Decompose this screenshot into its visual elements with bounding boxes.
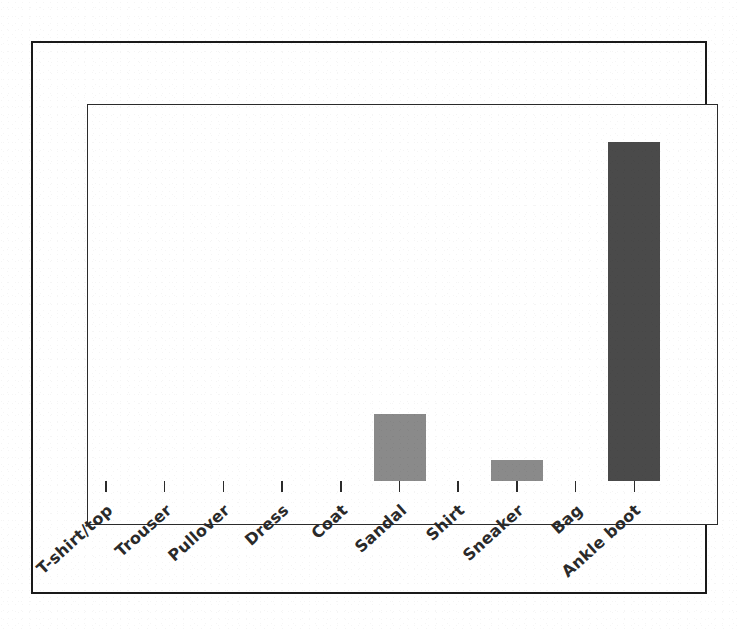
bar-ankle-boot[interactable] xyxy=(608,142,660,481)
x-tick-10 xyxy=(634,481,636,492)
x-tick-3 xyxy=(223,481,225,492)
x-tick-9 xyxy=(575,481,577,492)
x-axis-tick-marks xyxy=(0,481,740,495)
bar-sneaker[interactable] xyxy=(491,460,543,481)
x-tick-1 xyxy=(105,481,107,492)
x-tick-2 xyxy=(164,481,166,492)
bar-sandal[interactable] xyxy=(374,414,426,481)
x-tick-7 xyxy=(457,481,459,492)
x-tick-4 xyxy=(281,481,283,492)
x-tick-8 xyxy=(516,481,518,492)
plot-area xyxy=(55,62,684,481)
x-tick-6 xyxy=(399,481,401,492)
x-tick-5 xyxy=(340,481,342,492)
